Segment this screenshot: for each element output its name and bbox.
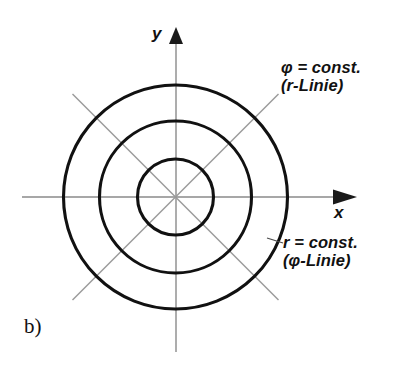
polar-grid-diagram [0,0,399,376]
annotation-r-const-line2: (φ-Linie) [283,251,358,269]
polar-coordinate-figure: φ = const. (r-Linie) r = const. (φ-Linie… [0,0,399,376]
y-axis-arrow-icon [169,27,183,44]
panel-label: b) [24,315,42,339]
annotation-phi-const: φ = const. (r-Linie) [281,58,361,95]
y-axis-label: y [152,24,161,43]
annotation-r-const-line1: r = const. [283,233,358,251]
annotation-phi-const-line1: φ = const. [281,58,361,76]
annotation-phi-const-line2: (r-Linie) [281,76,361,94]
annotation-r-const: r = const. (φ-Linie) [283,233,358,270]
x-axis-label: x [334,203,343,222]
